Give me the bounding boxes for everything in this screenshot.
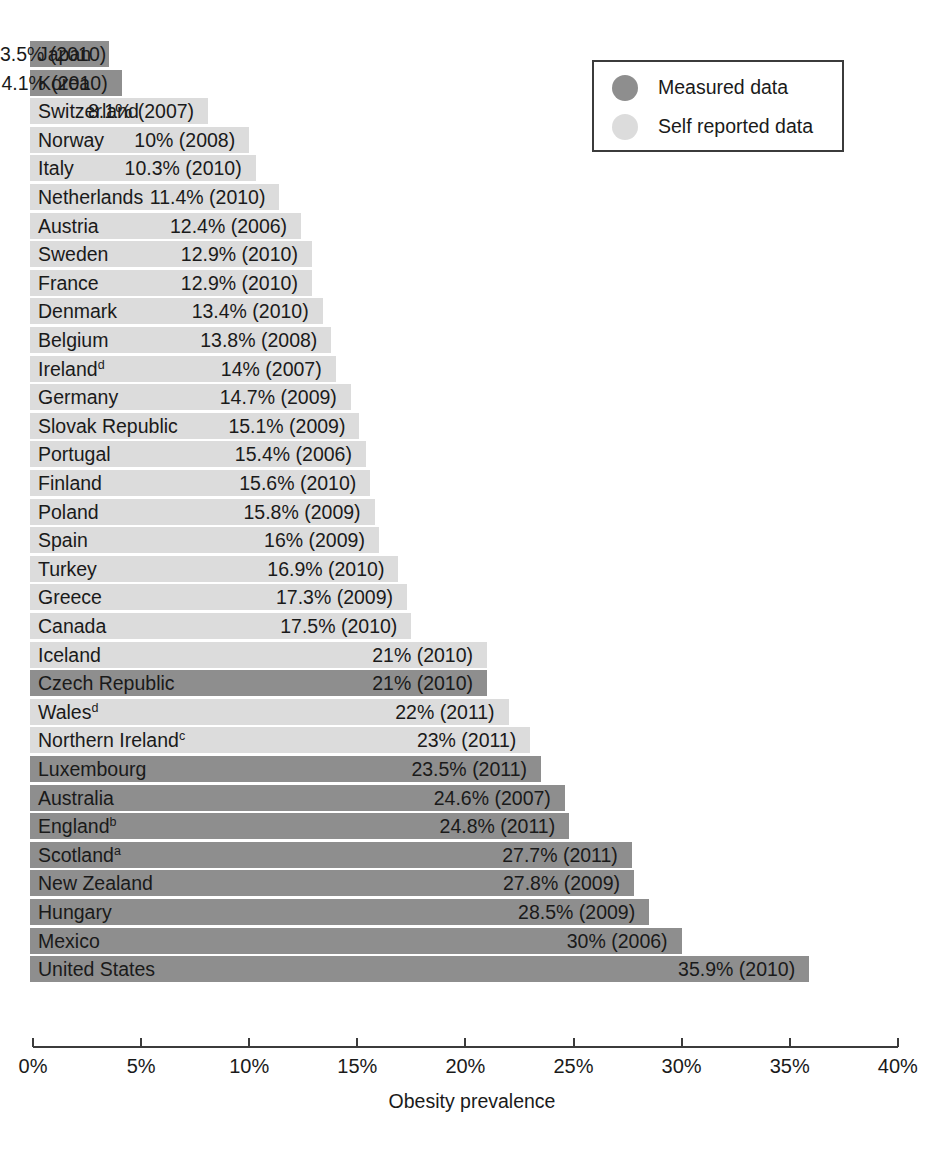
bar-belgium	[30, 327, 331, 353]
bar-row: Greece17.3% (2009)	[0, 584, 944, 610]
bar-row: Korea4.1% (2010)	[0, 70, 944, 96]
x-axis-tick-label: 25%	[553, 1056, 593, 1076]
bar-new-zealand	[30, 870, 634, 896]
bar-wales	[30, 699, 509, 725]
bar-row: Scotlanda27.7% (2011)	[0, 842, 944, 868]
bar-row: Norway10% (2008)	[0, 127, 944, 153]
bar-scotland	[30, 842, 632, 868]
bar-australia	[30, 785, 565, 811]
x-axis-tick-label: 20%	[445, 1056, 485, 1076]
bar-france	[30, 270, 312, 296]
bar-row: Canada17.5% (2010)	[0, 613, 944, 639]
bar-row: Italy10.3% (2010)	[0, 155, 944, 181]
bar-sweden	[30, 241, 312, 267]
bar-turkey	[30, 556, 398, 582]
bar-japan	[30, 41, 109, 67]
bar-row: Irelandd14% (2007)	[0, 356, 944, 382]
x-axis-tick-label: 40%	[878, 1056, 918, 1076]
bar-iceland	[30, 642, 487, 668]
bar-row: New Zealand27.8% (2009)	[0, 870, 944, 896]
bar-row: Japan3.5% (2010)	[0, 41, 944, 67]
x-axis-tick-label: 35%	[770, 1056, 810, 1076]
bar-row: Turkey16.9% (2010)	[0, 556, 944, 582]
bar-slovak-republic	[30, 413, 359, 439]
bar-row: Luxembourg23.5% (2011)	[0, 756, 944, 782]
bar-row: Finland15.6% (2010)	[0, 470, 944, 496]
bar-hungary	[30, 899, 649, 925]
x-axis-tick	[573, 1038, 575, 1047]
x-axis-tick	[32, 1038, 34, 1047]
bar-korea	[30, 70, 122, 96]
bar-row: Germany14.7% (2009)	[0, 384, 944, 410]
x-axis-tick-label: 10%	[229, 1056, 269, 1076]
x-axis-tick-label: 5%	[127, 1056, 156, 1076]
bar-netherlands	[30, 184, 279, 210]
x-axis-tick	[464, 1038, 466, 1047]
bar-row: Englandb24.8% (2011)	[0, 813, 944, 839]
bar-row: Portugal15.4% (2006)	[0, 441, 944, 467]
bar-ireland	[30, 356, 336, 382]
bar-poland	[30, 499, 375, 525]
bar-row: France12.9% (2010)	[0, 270, 944, 296]
bar-finland	[30, 470, 370, 496]
bar-row: Spain16% (2009)	[0, 527, 944, 553]
bar-luxembourg	[30, 756, 541, 782]
bar-row: Sweden12.9% (2010)	[0, 241, 944, 267]
bar-greece	[30, 584, 407, 610]
bar-plot-area: Japan3.5% (2010)Korea4.1% (2010)Switzerl…	[0, 0, 944, 1045]
bar-row: Hungary28.5% (2009)	[0, 899, 944, 925]
bar-canada	[30, 613, 411, 639]
bar-row: Netherlands11.4% (2010)	[0, 184, 944, 210]
bar-germany	[30, 384, 351, 410]
bar-row: Mexico30% (2006)	[0, 928, 944, 954]
bar-norway	[30, 127, 249, 153]
bar-united-states	[30, 956, 809, 982]
bar-italy	[30, 155, 256, 181]
bar-row: Belgium13.8% (2008)	[0, 327, 944, 353]
bar-row: Iceland21% (2010)	[0, 642, 944, 668]
bar-england	[30, 813, 569, 839]
bar-row: Austria12.4% (2006)	[0, 213, 944, 239]
x-axis-title: Obesity prevalence	[0, 1092, 944, 1112]
bar-mexico	[30, 928, 682, 954]
bar-austria	[30, 213, 301, 239]
bar-northern-ireland	[30, 727, 530, 753]
x-axis-tick	[897, 1038, 899, 1047]
bar-denmark	[30, 298, 323, 324]
x-axis-tick	[248, 1038, 250, 1047]
bar-row: Switzerland8.1% (2007)	[0, 98, 944, 124]
x-axis-tick-label: 30%	[662, 1056, 702, 1076]
x-axis-tick	[789, 1038, 791, 1047]
bar-row: Slovak Republic15.1% (2009)	[0, 413, 944, 439]
bar-czech-republic	[30, 670, 487, 696]
bar-portugal	[30, 441, 366, 467]
bar-row: Northern Irelandc23% (2011)	[0, 727, 944, 753]
bar-spain	[30, 527, 379, 553]
x-axis-tick-label: 0%	[19, 1056, 48, 1076]
bar-row: Czech Republic21% (2010)	[0, 670, 944, 696]
bar-row: United States35.9% (2010)	[0, 956, 944, 982]
bar-row: Walesd22% (2011)	[0, 699, 944, 725]
bar-switzerland	[30, 98, 208, 124]
bar-row: Poland15.8% (2009)	[0, 499, 944, 525]
x-axis-tick	[681, 1038, 683, 1047]
obesity-prevalence-chart: Measured data Self reported data Japan3.…	[0, 0, 944, 1149]
bar-row: Australia24.6% (2007)	[0, 785, 944, 811]
bar-row: Denmark13.4% (2010)	[0, 298, 944, 324]
x-axis-tick	[140, 1038, 142, 1047]
x-axis-tick-label: 15%	[337, 1056, 377, 1076]
x-axis-tick	[356, 1038, 358, 1047]
